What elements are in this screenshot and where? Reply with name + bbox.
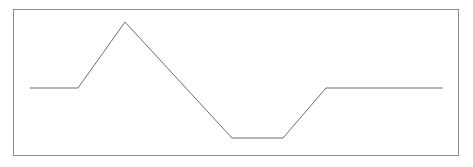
plot-border	[13, 9, 458, 155]
waveform-line	[30, 22, 443, 138]
figure-root	[0, 0, 473, 167]
waveform-plot	[0, 0, 473, 167]
